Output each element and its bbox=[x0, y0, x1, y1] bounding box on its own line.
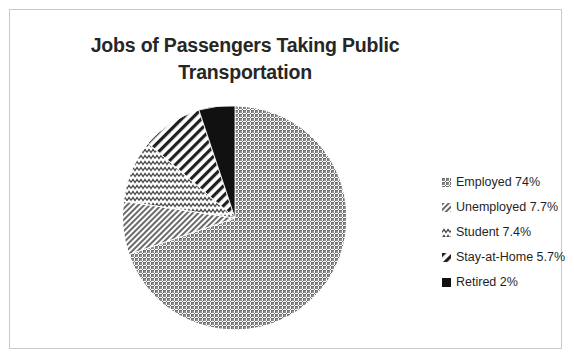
legend-item-label: Student 7.4% bbox=[456, 226, 531, 239]
zigzag-wave-swatch-icon bbox=[442, 228, 451, 237]
legend-item-label: Employed 74% bbox=[456, 176, 540, 189]
chart-frame: Jobs of Passengers Taking Public Transpo… bbox=[9, 9, 562, 349]
legend-item-label: Retired 2% bbox=[456, 276, 518, 289]
legend-item-unemployed[interactable]: Unemployed 7.7% bbox=[442, 195, 574, 220]
chart-legend: Employed 74% Unemployed 7.7% Student 7.4… bbox=[442, 170, 574, 295]
legend-item-label: Unemployed 7.7% bbox=[456, 201, 558, 214]
chart-title-line-1: Jobs of Passengers Taking Public bbox=[70, 32, 420, 59]
dense-gray-dots-swatch-icon bbox=[442, 178, 451, 187]
fine-diagonal-hatch-swatch-icon bbox=[442, 203, 451, 212]
legend-item-label: Stay-at-Home 5.7% bbox=[456, 251, 565, 264]
chart-title-line-2: Transportation bbox=[70, 59, 420, 86]
legend-item-employed[interactable]: Employed 74% bbox=[442, 170, 574, 195]
page-title: Jobs of Passengers Taking Public Transpo… bbox=[70, 32, 420, 86]
legend-item-retired[interactable]: Retired 2% bbox=[442, 270, 574, 295]
solid-black-swatch-icon bbox=[442, 278, 451, 287]
legend-item-student[interactable]: Student 7.4% bbox=[442, 220, 574, 245]
legend-item-stay-at-home[interactable]: Stay-at-Home 5.7% bbox=[442, 245, 574, 270]
pie-chart-svg bbox=[123, 106, 347, 330]
bold-diagonal-stripes-swatch-icon bbox=[442, 253, 451, 262]
pie-chart bbox=[123, 106, 347, 330]
